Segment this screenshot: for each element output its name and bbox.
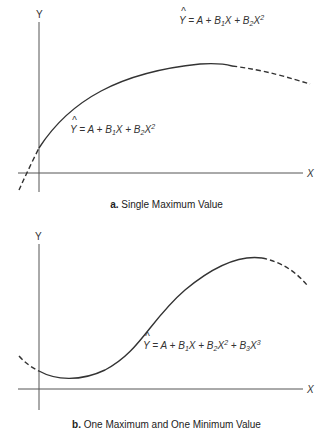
caption-b: b. One Maximum and One Minimum Value bbox=[0, 419, 333, 430]
y-axis-label: Y bbox=[35, 231, 42, 242]
equation-curve-label: ^ Y = A + B1X + B2X2 + B3X3 bbox=[143, 331, 261, 352]
caption-a-text: Single Maximum Value bbox=[121, 199, 223, 210]
curve-extension-left bbox=[19, 148, 39, 190]
curve-extension-right bbox=[262, 258, 307, 285]
svg-text:Y = A + B1X + B2X2: Y = A + B1X + B2X2 bbox=[70, 123, 155, 136]
figure-canvas: Y X ^ Y = A + B1X + B2X2 ^ Y = A + B1X +… bbox=[0, 0, 333, 439]
curve-extension-right bbox=[232, 66, 310, 84]
curve-solid bbox=[39, 64, 232, 148]
curve-solid bbox=[39, 257, 262, 378]
svg-text:Y = A + B1X + B2X2: Y = A + B1X + B2X2 bbox=[179, 14, 264, 27]
y-axis-label: Y bbox=[36, 9, 43, 20]
equation-top: ^ Y = A + B1X + B2X2 bbox=[179, 6, 264, 27]
svg-text:Y = A + B1X + B2X2 + B3X3: Y = A + B1X + B2X2 + B3X3 bbox=[143, 339, 261, 352]
caption-b-text: One Maximum and One Minimum Value bbox=[84, 419, 261, 430]
chart-a: Y X ^ Y = A + B1X + B2X2 ^ Y = A + B1X +… bbox=[18, 6, 314, 192]
caption-b-letter: b. bbox=[72, 419, 81, 430]
curve-extension-left bbox=[19, 356, 39, 371]
caption-a-letter: a. bbox=[110, 199, 118, 210]
chart-b: Y X ^ Y = A + B1X + B2X2 + B3X3 bbox=[18, 231, 314, 410]
caption-a: a. Single Maximum Value bbox=[0, 199, 333, 210]
equation-curve-label: ^ Y = A + B1X + B2X2 bbox=[70, 115, 155, 136]
x-axis-label: X bbox=[306, 384, 314, 395]
x-axis-label: X bbox=[306, 168, 314, 179]
